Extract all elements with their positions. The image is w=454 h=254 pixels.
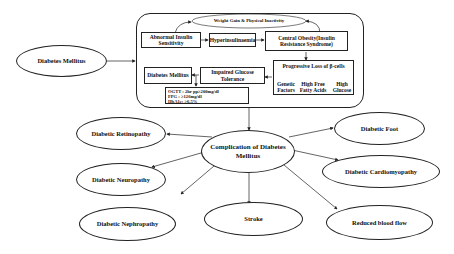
abnormal-insulin-box: Abnormal Insulin Sensitivity [141, 32, 201, 48]
complication-neuropathy: Diabetic Neuropathy [76, 163, 166, 196]
central-complication-node: Complication of Diabetes Mellitus [201, 130, 295, 173]
hyperinsulinaemia-box: Hyperinsulinaemia [209, 33, 256, 47]
impaired-glucose-box: Impaired Glucose Tolerance [200, 67, 265, 84]
complication-cardiomyopathy: Diabetic Cardiomyopathy [322, 155, 440, 188]
beta-cause-ffa: High Free Fatty Acids [299, 81, 327, 94]
beta-cause-glucose: High Glucose [331, 81, 353, 94]
weight-gain-label: Weight Gain & Physical Inactivity [194, 18, 304, 24]
beta-cause-genetic: Genetic Factors [274, 81, 298, 94]
complication-diabetic-foot: Diabetic Foot [334, 112, 425, 145]
diabetes-mellitus-node: Diabetes Mellitus [16, 45, 107, 77]
complication-nephropathy: Diabetic Nephropathy [79, 207, 176, 241]
central-obesity-box: Central Obesity(Insulin Resistance Syndr… [265, 31, 348, 51]
criteria-hba1c: HbA1c: ≥6.5% [168, 99, 246, 104]
diagnostic-criteria-box: OGTT : 2hr pp≥200mg/dl FPG : ≥126mg/dl H… [165, 87, 249, 104]
complication-retinopathy: Diabetic Retinopathy [76, 117, 166, 150]
complication-stroke: Stroke [204, 202, 303, 236]
diabetes-mellitus-box: Diabetes Mellitus [144, 67, 192, 84]
complication-reduced-blood-flow: Reduced blood flow [326, 205, 433, 240]
